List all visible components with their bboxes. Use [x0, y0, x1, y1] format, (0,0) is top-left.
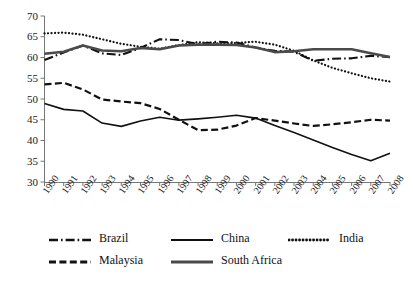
series-line-china [45, 104, 391, 161]
legend-label: India [339, 232, 364, 244]
y-axis-tick-label: 55 [18, 73, 38, 84]
y-axis-tick-label: 45 [18, 114, 38, 125]
legend-item-brazil[interactable]: Brazil [48, 227, 170, 249]
legend-label: South Africa [221, 254, 282, 266]
y-axis-tick-label: 30 [18, 177, 38, 188]
legend-label: Malaysia [99, 254, 143, 266]
line-chart: 303540455055606570 199019911992199319941… [0, 0, 413, 282]
chart-legend: BrazilChinaIndiaMalaysiaSouth Africa [48, 227, 388, 271]
legend-swatch-icon [170, 254, 214, 266]
legend-swatch-icon [170, 232, 214, 244]
series-line-india [45, 33, 391, 82]
y-axis-tick-label: 70 [18, 11, 38, 22]
y-axis-tick-label: 60 [18, 52, 38, 63]
y-axis-tick-label: 50 [18, 94, 38, 105]
legend-swatch-icon [288, 232, 332, 244]
legend-item-south-africa[interactable]: South Africa [170, 249, 340, 271]
y-axis-tick-label: 40 [18, 135, 38, 146]
legend-item-china[interactable]: China [170, 227, 288, 249]
legend-swatch-icon [48, 232, 92, 244]
legend-label: China [221, 232, 250, 244]
legend-item-india[interactable]: India [288, 227, 388, 249]
series-lines [45, 33, 391, 161]
series-line-malaysia [45, 83, 391, 130]
legend-swatch-icon [48, 254, 92, 266]
y-axis-tick-label: 65 [18, 31, 38, 42]
legend-label: Brazil [99, 232, 128, 244]
y-axis-tick-label: 35 [18, 156, 38, 167]
legend-item-malaysia[interactable]: Malaysia [48, 249, 170, 271]
y-axis-ticks [41, 16, 45, 182]
